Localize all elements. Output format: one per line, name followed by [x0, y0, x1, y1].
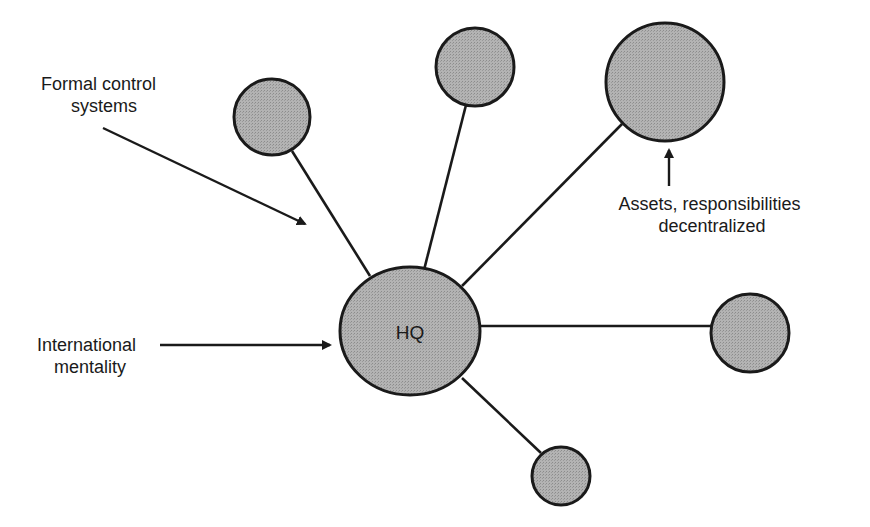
spoke-top: [424, 105, 466, 270]
node-bottom: [532, 447, 590, 505]
label-assets-decentralized: Assets, responsibilities decentralized: [618, 194, 805, 236]
node-right: [711, 294, 789, 372]
label-formal-control-line2: systems: [71, 96, 137, 116]
label-international-line2: mentality: [54, 357, 126, 377]
hub-and-spoke-diagram: HQ Formal control systems International …: [0, 0, 870, 527]
label-formal-control-line1: Formal control: [41, 74, 156, 94]
node-top: [436, 28, 514, 106]
label-formal-control: Formal control systems: [41, 74, 161, 116]
node-upper-right: [606, 23, 724, 141]
label-assets-line1: Assets, responsibilities: [618, 194, 800, 214]
node-upper-left: [234, 79, 310, 155]
spoke-upper-right: [462, 124, 622, 286]
hq-label: HQ: [396, 322, 425, 343]
spoke-upper-left: [292, 151, 370, 276]
label-assets-line2: decentralized: [658, 216, 765, 236]
label-international-line1: International: [37, 335, 136, 355]
spoke-bottom: [462, 378, 541, 453]
label-international-mentality: International mentality: [37, 335, 141, 377]
